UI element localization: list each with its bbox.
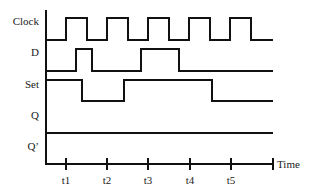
waveform-clock: [46, 18, 273, 40]
waveform-d: [46, 49, 273, 71]
signal-label-q: Q: [31, 109, 39, 121]
signal-label-set: Set: [25, 78, 39, 90]
waveform-set: [46, 80, 273, 101]
signal-label-d: D: [31, 46, 39, 58]
tick-label-t1: t1: [62, 174, 71, 186]
time-axis-label: Time: [277, 158, 300, 170]
signal-label-q-bar: Q’: [27, 140, 39, 152]
signal-waveforms: [46, 18, 273, 164]
signal-labels: ClockDSetQQ’: [13, 15, 40, 152]
tick-label-t3: t3: [144, 174, 153, 186]
tick-label-t2: t2: [103, 174, 112, 186]
timing-diagram: ClockDSetQQ’ Timet1t2t3t4t5: [0, 0, 314, 195]
signal-label-clock: Clock: [13, 15, 40, 27]
time-axis: Timet1t2t3t4t5: [46, 10, 300, 186]
tick-label-t5: t5: [227, 174, 236, 186]
tick-label-t4: t4: [186, 174, 195, 186]
